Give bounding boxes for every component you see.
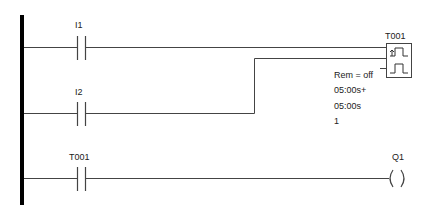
coil-q1[interactable] xyxy=(390,170,393,187)
rung-3 xyxy=(24,167,404,191)
timer-value: 1 xyxy=(334,116,339,126)
contact-label: I1 xyxy=(75,20,83,30)
timer-block-t001[interactable] xyxy=(380,44,412,78)
contact-label: I2 xyxy=(75,87,83,97)
coil-label: Q1 xyxy=(392,152,404,162)
rung-1 xyxy=(24,36,386,60)
timer-on-time: 05:00s+ xyxy=(334,85,366,95)
timer-label: T001 xyxy=(385,31,406,41)
contact-label: T001 xyxy=(69,152,90,162)
power-rail xyxy=(20,15,24,205)
timer-off-time: 05:00s xyxy=(334,101,361,111)
ladder-diagram xyxy=(0,0,425,215)
timer-remanence: Rem = off xyxy=(334,70,373,80)
